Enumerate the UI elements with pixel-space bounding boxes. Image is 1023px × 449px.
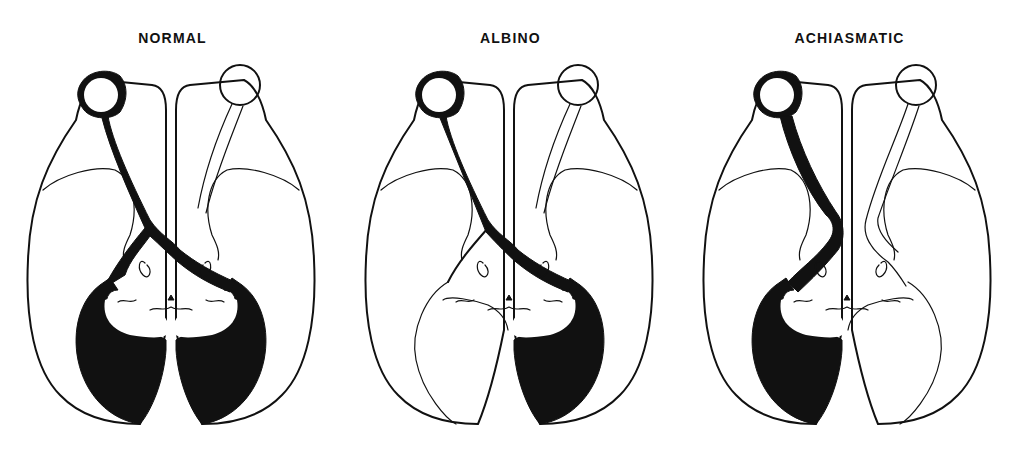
- brain-diagram-achiasmatic: [676, 0, 1023, 449]
- panel-achiasmatic: ACHIASMATIC: [676, 0, 1023, 449]
- brain-diagram-normal: [0, 0, 345, 449]
- panel-normal: NORMAL: [0, 0, 345, 449]
- brain-diagram-albino: [338, 0, 683, 449]
- panel-albino: ALBINO: [338, 0, 683, 449]
